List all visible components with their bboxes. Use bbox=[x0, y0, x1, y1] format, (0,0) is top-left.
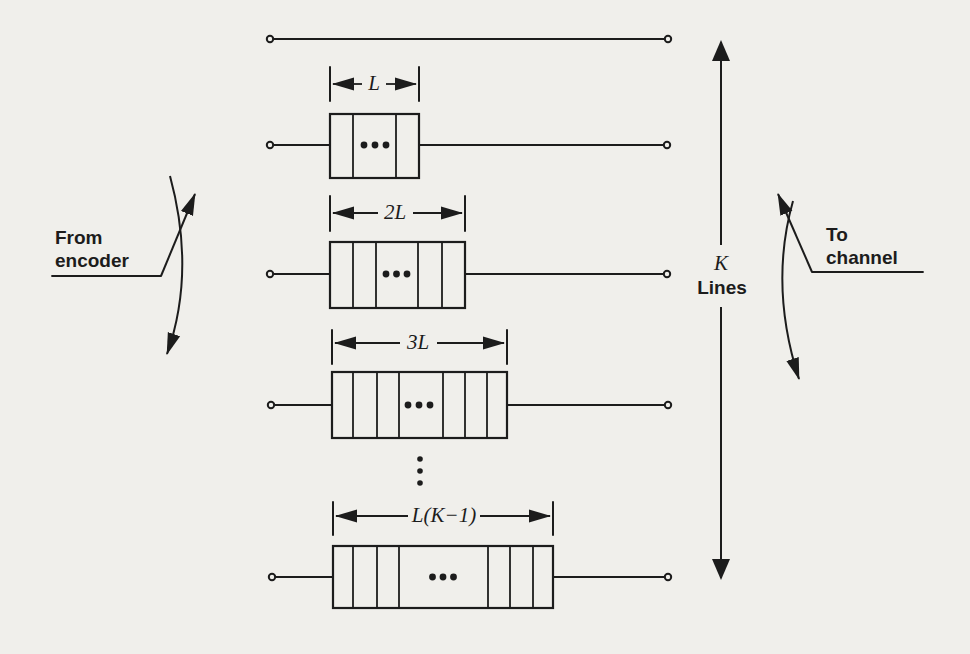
tap-line-2: L bbox=[267, 67, 670, 178]
source-label-line1: From bbox=[55, 227, 103, 248]
output-commutator: To channel bbox=[778, 194, 923, 379]
line-3-left-terminal bbox=[267, 271, 273, 277]
dimension-2L: 2L bbox=[330, 196, 465, 231]
line-5-left-terminal bbox=[269, 574, 275, 580]
tap-line-1 bbox=[267, 36, 671, 42]
line-3-right-terminal bbox=[664, 271, 670, 277]
line-4-left-terminal bbox=[268, 402, 274, 408]
output-commutator-sweep-arc bbox=[782, 201, 799, 379]
line-4-right-terminal bbox=[665, 402, 671, 408]
sink-label-line2: channel bbox=[826, 247, 898, 268]
tap-line-3: 2L bbox=[267, 196, 670, 308]
dimension-L-label: L bbox=[367, 71, 380, 95]
dimension-3L: 3L bbox=[332, 330, 507, 364]
source-label-line2: encoder bbox=[55, 250, 130, 271]
input-commutator: From encoder bbox=[52, 176, 195, 354]
sink-label-line1: To bbox=[826, 224, 848, 245]
tap-line-4: 3L bbox=[268, 330, 671, 438]
interleaver-diagram: L 2L bbox=[0, 0, 970, 654]
input-commutator-arm bbox=[161, 194, 195, 276]
delay-register-L-ellipsis bbox=[361, 142, 390, 149]
delay-register-LK1-ellipsis bbox=[429, 574, 457, 581]
input-commutator-sweep-arc bbox=[167, 176, 182, 354]
dimension-LK1-label: L(K−1) bbox=[411, 503, 476, 527]
k-count-label: K bbox=[713, 251, 729, 275]
line-1-left-terminal bbox=[267, 36, 273, 42]
rows-ellipsis bbox=[417, 456, 423, 486]
dimension-L: L bbox=[330, 67, 419, 101]
k-lines-extent-arrow: K Lines bbox=[697, 42, 747, 578]
line-5-right-terminal bbox=[665, 574, 671, 580]
line-2-right-terminal bbox=[664, 142, 670, 148]
figure-page: L 2L bbox=[0, 0, 970, 654]
k-lines-word-label: Lines bbox=[697, 277, 747, 298]
tap-line-5: L(K−1) bbox=[269, 502, 671, 608]
dimension-2L-label: 2L bbox=[384, 200, 406, 224]
delay-register-3L-ellipsis bbox=[405, 402, 434, 409]
line-2-left-terminal bbox=[267, 142, 273, 148]
delay-register-2L-ellipsis bbox=[383, 271, 411, 278]
dimension-LK1: L(K−1) bbox=[333, 502, 553, 535]
dimension-3L-label: 3L bbox=[406, 330, 429, 354]
line-1-right-terminal bbox=[665, 36, 671, 42]
